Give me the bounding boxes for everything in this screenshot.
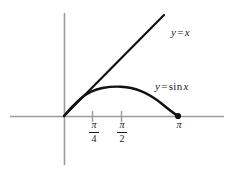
tick-label-pi-text: π	[176, 119, 181, 130]
fraction-denominator: 2	[117, 133, 126, 145]
fraction-numerator: π	[117, 120, 126, 133]
tick-label-pi: π	[171, 120, 187, 130]
label-y-equals-x: y=x	[171, 26, 190, 38]
fraction-numerator: π	[89, 120, 98, 133]
tick-label-pi-over-4: π 4	[85, 120, 103, 144]
plot-canvas	[0, 0, 234, 177]
label-line-operator: =	[176, 26, 185, 38]
label-line-rhs: x	[185, 26, 190, 38]
fraction-pi-over-2: π 2	[117, 120, 126, 144]
graph-figure: y=x y=sinx π 4 π 2 π	[0, 0, 234, 177]
tick-label-pi-over-2: π 2	[113, 120, 131, 144]
label-y-equals-sin-x: y=sinx	[155, 80, 189, 92]
label-curve-argument: x	[183, 80, 188, 92]
fraction-denominator: 4	[89, 133, 98, 145]
fraction-pi-over-4: π 4	[89, 120, 98, 144]
label-curve-operator: =	[160, 80, 169, 92]
label-curve-function: sin	[169, 80, 184, 92]
